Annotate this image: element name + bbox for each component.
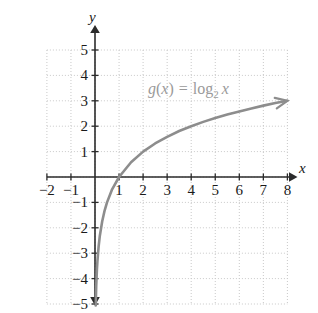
- y-tick-label: 1: [81, 144, 89, 160]
- x-tick-label: 2: [139, 182, 147, 198]
- y-tick-label: 4: [81, 67, 89, 83]
- x-tick-label: 5: [212, 182, 220, 198]
- equation-log: log: [193, 80, 213, 98]
- y-tick-label: 5: [81, 42, 89, 58]
- x-tick-label: 7: [260, 182, 268, 198]
- equation-var2: x: [221, 80, 229, 97]
- equation-equals: =: [179, 80, 188, 97]
- x-tick-label: 1: [115, 182, 123, 198]
- y-tick-label: 2: [81, 118, 89, 134]
- y-tick-label: −5: [72, 296, 88, 312]
- equation-var1: x: [160, 80, 168, 97]
- y-tick-label: −3: [72, 245, 88, 261]
- x-tick-label: 8: [284, 182, 292, 198]
- y-tick-label: −2: [72, 220, 88, 236]
- x-tick-label: 3: [163, 182, 171, 198]
- log-function-graph: −2−11234567854321−1−2−3−4−5 x y g(x)=log…: [0, 0, 318, 313]
- y-axis-label: y: [87, 9, 96, 25]
- x-tick-label: 4: [187, 182, 195, 198]
- equation-close-paren: ): [168, 80, 173, 98]
- figure-background: [0, 0, 318, 313]
- x-tick-label: −2: [39, 182, 55, 198]
- y-tick-label: −4: [72, 271, 88, 287]
- y-tick-label: −1: [72, 194, 88, 210]
- equation-base: 2: [213, 88, 219, 100]
- y-tick-label: 3: [81, 93, 89, 109]
- x-axis-label: x: [298, 160, 306, 176]
- x-tick-label: 6: [236, 182, 244, 198]
- equation-fn: g: [148, 80, 156, 98]
- graph-canvas: −2−11234567854321−1−2−3−4−5 x y g(x)=log…: [0, 0, 318, 313]
